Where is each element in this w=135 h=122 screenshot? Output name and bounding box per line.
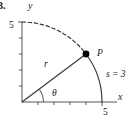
y-axis-ticks xyxy=(18,22,22,86)
radius-label: r xyxy=(44,59,48,69)
point-p-marker xyxy=(83,51,90,58)
angle-arc-theta xyxy=(39,89,43,102)
polar-coordinate-diagram xyxy=(0,0,135,122)
angle-theta-label: θ xyxy=(52,89,57,99)
arc-length-label: s = 3 xyxy=(106,70,126,80)
point-p-label: P xyxy=(97,49,103,59)
figure-container: 3. y x xyxy=(0,0,135,122)
dashed-circle-arc xyxy=(22,22,86,54)
y-axis-label: y xyxy=(28,1,32,11)
x-axis-ticks xyxy=(38,102,102,106)
y-axis-tick-label-5: 5 xyxy=(9,21,14,31)
solid-arc-s xyxy=(86,54,102,102)
x-axis-tick-label-5: 5 xyxy=(103,108,108,118)
x-axis-label: x xyxy=(118,92,122,102)
